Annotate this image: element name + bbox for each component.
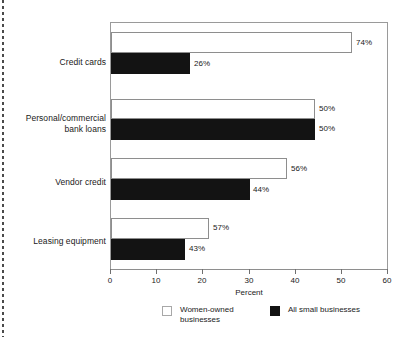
bar-leasing-equipment-women-owned	[111, 218, 209, 239]
bar-value-credit-cards-women-owned: 74%	[356, 38, 372, 47]
x-tick-label-20: 20	[198, 276, 207, 285]
bar-credit-cards-all-small	[111, 53, 190, 74]
bar-value-credit-cards-all-small: 26%	[194, 59, 210, 68]
category-label-leasing-equipment: Leasing equipment	[2, 236, 106, 247]
legend-item-women-owned: Women-owned businesses	[162, 305, 234, 324]
x-tick-label-30: 30	[245, 276, 254, 285]
x-tick-label-40: 40	[291, 276, 300, 285]
legend-label-all-small-businesses: All small businesses	[288, 305, 360, 315]
bar-bank-loans-all-small	[111, 119, 315, 140]
bar-value-vendor-credit-women-owned: 56%	[291, 164, 307, 173]
bar-value-vendor-credit-all-small: 44%	[253, 185, 269, 194]
x-tick-30	[249, 269, 250, 274]
x-tick-0	[110, 269, 111, 274]
x-tick-label-50: 50	[337, 276, 346, 285]
x-axis-title: Percent	[110, 288, 388, 297]
legend-swatch-black-icon	[270, 306, 280, 316]
category-label-vendor-credit: Vendor credit	[2, 177, 106, 188]
category-label-bank-loans: Personal/commercial bank loans	[2, 113, 106, 134]
x-tick-label-0: 0	[108, 276, 112, 285]
x-tick-50	[341, 269, 342, 274]
chart-legend: Women-owned businesses All small busines…	[110, 305, 394, 335]
legend-label-women-owned: Women-owned businesses	[180, 305, 234, 324]
category-label-credit-cards: Credit cards	[2, 57, 106, 68]
x-tick-label-60: 60	[383, 276, 392, 285]
bar-value-leasing-equipment-women-owned: 57%	[213, 223, 229, 232]
category-axis-labels: Credit cards Personal/commercial bank lo…	[0, 0, 106, 280]
legend-swatch-white-icon	[162, 306, 172, 316]
bar-value-leasing-equipment-all-small: 43%	[189, 244, 205, 253]
x-tick-label-10: 10	[152, 276, 161, 285]
x-tick-20	[202, 269, 203, 274]
bar-credit-cards-women-owned	[111, 32, 352, 53]
bar-bank-loans-women-owned	[111, 99, 315, 119]
bar-vendor-credit-women-owned	[111, 158, 287, 179]
x-tick-60	[387, 269, 388, 274]
x-tick-40	[295, 269, 296, 274]
bar-vendor-credit-all-small	[111, 179, 250, 200]
legend-item-all-small-businesses: All small businesses	[270, 305, 360, 316]
bar-value-bank-loans-women-owned: 50%	[319, 104, 335, 113]
bar-value-bank-loans-all-small: 50%	[319, 124, 335, 133]
x-tick-10	[156, 269, 157, 274]
bar-leasing-equipment-all-small	[111, 239, 185, 260]
